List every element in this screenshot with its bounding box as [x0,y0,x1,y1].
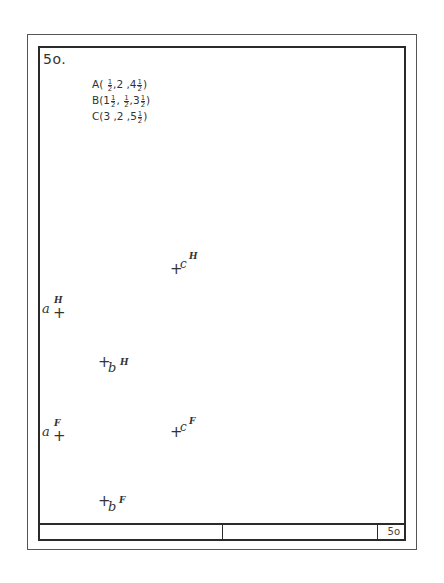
sheet-number: 5o. [43,51,66,67]
coord-c: C(3 ,2 ,512) [92,108,150,124]
drawing-sheet: 5o. A( 12,2 ,412) B(112, 12,312) C(3 ,2 … [38,46,406,541]
title-block-divider [377,525,378,539]
title-block-divider [222,525,223,539]
plus-marker-icon: + [53,429,66,444]
coord-b: B(112, 12,312) [92,92,150,108]
title-block: 5o [40,523,404,539]
given-coordinates: A( 12,2 ,412) B(112, 12,312) C(3 ,2 ,512… [92,76,150,124]
title-block-number: 5o [388,525,400,539]
coord-a: A( 12,2 ,412) [92,76,150,92]
plus-marker-icon: + [53,306,66,321]
